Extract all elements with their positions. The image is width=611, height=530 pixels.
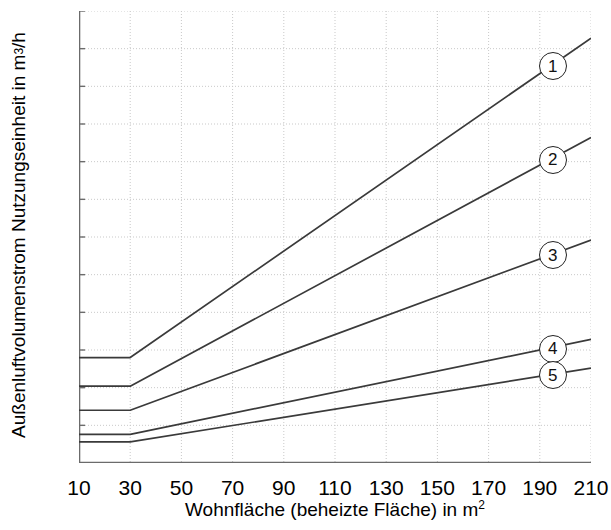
series-callout-4: 4 (539, 335, 567, 363)
series-callout-label: 1 (548, 58, 557, 75)
series-callout-5: 5 (539, 361, 567, 389)
x-axis-title-exponent: 2 (478, 498, 485, 512)
chart-canvas (79, 11, 591, 463)
plot-area: 0501001502002503001030507090110130150170… (79, 11, 591, 463)
y-axis-title-exponent: 3 (12, 48, 26, 55)
series-line-3 (79, 240, 591, 410)
series-line-2 (79, 138, 591, 387)
y-axis-title-tail: /h (8, 32, 30, 48)
x-tick-label-210: 210 (561, 477, 611, 498)
series-callout-2: 2 (539, 146, 567, 174)
x-axis-title-text: Wohnfläche (beheizte Fläche) in m (185, 499, 478, 520)
series-callout-label: 2 (548, 151, 557, 168)
series-callout-1: 1 (539, 52, 567, 80)
x-axis-title: Wohnfläche (beheizte Fläche) in m2 (79, 498, 591, 521)
series-callout-label: 4 (548, 340, 557, 357)
series-callout-label: 5 (548, 367, 557, 384)
y-axis-title: Außenluftvolumenstrom Nutzungseinheit in… (0, 0, 38, 470)
y-axis-title-text: Außenluftvolumenstrom Nutzungseinheit in… (8, 55, 30, 438)
series-callout-label: 3 (548, 247, 557, 264)
chart-figure: Außenluftvolumenstrom Nutzungseinheit in… (0, 0, 611, 530)
